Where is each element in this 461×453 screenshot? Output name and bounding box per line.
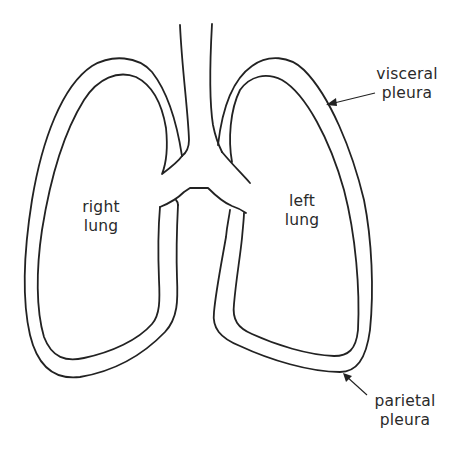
visceral-pleura-label-line1: visceral [372, 65, 442, 84]
parietal-pleura-label-line2: pleura [370, 411, 440, 430]
visceral-pleura-label: visceral pleura [372, 65, 442, 103]
right-lung-label: right lung [76, 198, 126, 236]
left-lung-label-line2: lung [277, 211, 327, 230]
left-lung-label: left lung [277, 192, 327, 230]
right-lung [25, 58, 246, 377]
visceral-pleura-label-line2: pleura [372, 84, 442, 103]
trachea [180, 24, 222, 156]
left-lung-label-line1: left [277, 192, 327, 211]
visceral-pleura-pointer [326, 93, 375, 106]
right-lung-label-line2: lung [76, 217, 126, 236]
parietal-pleura-pointer [343, 373, 367, 395]
parietal-pleura-label-line1: parietal [370, 392, 440, 411]
parietal-pleura-label: parietal pleura [370, 392, 440, 430]
right-lung-label-line1: right [76, 198, 126, 217]
